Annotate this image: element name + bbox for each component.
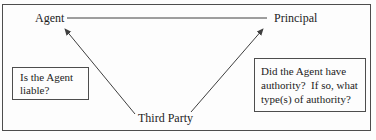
node-principal-label: Principal bbox=[274, 12, 317, 25]
node-third-party-label: Third Party bbox=[138, 112, 193, 125]
diagram-canvas: Agent Principal Third Party Is the Agent… bbox=[0, 0, 376, 140]
question-text-line: Did the Agent have bbox=[261, 64, 365, 78]
node-agent-label: Agent bbox=[35, 12, 64, 25]
question-text-line: liable? bbox=[20, 84, 88, 97]
principal-authority-question-box: Did the Agent have authority? If so, wha… bbox=[254, 58, 366, 112]
agent-liability-question-box: Is the Agent liable? bbox=[12, 67, 89, 100]
question-text-line: Is the Agent bbox=[20, 71, 88, 84]
question-text-line: authority? If so, what bbox=[261, 78, 365, 92]
question-text-line: type(s) of authority? bbox=[261, 92, 365, 106]
